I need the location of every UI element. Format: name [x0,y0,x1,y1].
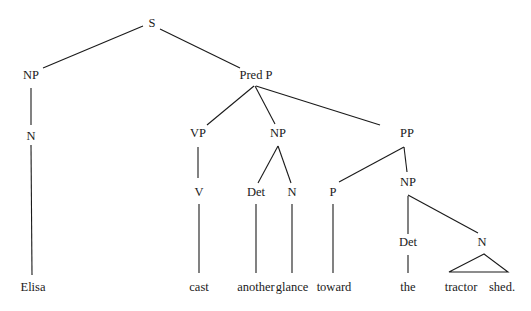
tree-edge [278,146,291,183]
n-triangle-roof [449,254,508,272]
node-label-p: P [330,185,337,199]
word-another: another [237,280,275,294]
syntax-tree-diagram: SNPPred PNVPNPPPVDetNPNPDetN Elisacastan… [0,0,531,311]
word-glance: glance [276,280,309,294]
node-label-det2: Det [399,235,418,249]
tree-edge [256,86,380,125]
tree-edge [207,86,254,125]
node-label-pp: PP [400,126,414,140]
word-tractor: tractor [445,280,478,294]
terminal-words: Elisacastanotherglancetowardthetractorsh… [21,280,516,294]
word-the: the [400,280,416,294]
node-label-det1: Det [247,185,266,199]
tree-edge [31,145,32,275]
node-label-v: V [194,185,203,199]
tree-edge [255,86,275,124]
node-label-np2: NP [270,126,286,140]
node-label-s: S [149,16,156,30]
node-label-n2: N [287,185,296,199]
word-cast: cast [189,280,209,294]
tree-edge [404,147,407,172]
tree-edge [408,195,478,233]
node-label-vp: VP [190,126,206,140]
tree-edge [339,147,404,182]
node-label-np1: NP [23,68,39,82]
word-elisa: Elisa [21,280,46,294]
tree-nodes: SNPPred PNVPNPPPVDetNPNPDetN [23,16,487,249]
node-label-n3: N [477,235,486,249]
word-toward: toward [317,280,352,294]
tree-edge [258,146,278,183]
tree-edge [43,26,143,68]
node-label-np3: NP [400,175,416,189]
node-label-n1: N [26,129,35,143]
word-shed: shed. [489,280,515,294]
tree-edge [160,29,240,68]
node-label-predp: Pred P [240,68,273,82]
